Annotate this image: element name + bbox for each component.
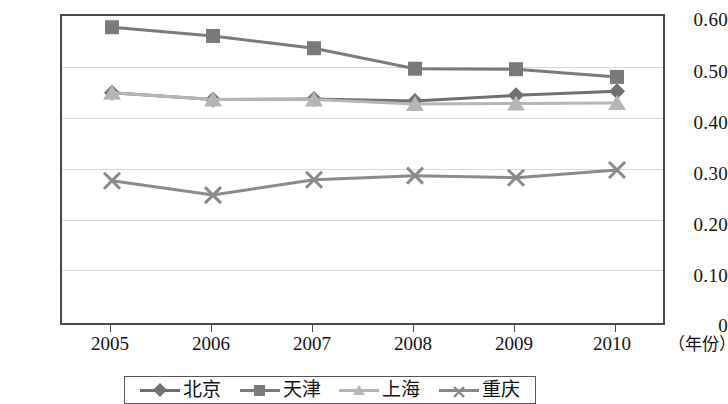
x-axis-tick-label: 2007 [267, 333, 357, 355]
legend-label: 上海 [382, 380, 420, 400]
legend-label: 北京 [183, 380, 221, 400]
legend-label: 重庆 [482, 380, 520, 400]
x-axis-tick-label: 2009 [469, 333, 559, 355]
y-axis-tick-label: 0.60 [672, 10, 728, 29]
series-canvas [62, 16, 663, 323]
legend-item-chongqing: 重庆 [439, 380, 520, 400]
square-marker-icon [240, 382, 280, 398]
y-axis-tick-label: 0.50 [672, 62, 728, 81]
plot-area [60, 14, 665, 325]
x-axis-unit-label: （年份） [668, 334, 728, 356]
cross-marker-icon [439, 382, 479, 398]
x-axis-tick-mark [615, 325, 616, 332]
legend-item-beijing: 北京 [140, 380, 221, 400]
x-axis-tick-mark [413, 325, 414, 332]
diamond-marker-icon [140, 382, 180, 398]
y-axis-tick-label: 0.20 [672, 215, 728, 234]
x-axis-tick-label: 2008 [368, 333, 458, 355]
y-axis-tick-label: 0.10 [672, 266, 728, 285]
x-axis-tick-mark [110, 325, 111, 332]
legend-label: 天津 [283, 380, 321, 400]
y-axis-tick-label: 0.40 [672, 113, 728, 132]
x-axis-tick-mark [312, 325, 313, 332]
x-axis-tick-label: 2010 [567, 333, 657, 355]
legend-item-tianjin: 天津 [240, 380, 321, 400]
x-axis-tick-mark [211, 325, 212, 332]
x-axis-tick-label: 2006 [166, 333, 256, 355]
chart-legend: 北京 天津 上海 重庆 [124, 376, 536, 404]
x-axis-tick-mark [514, 325, 515, 332]
triangle-marker-icon [339, 382, 379, 398]
y-axis-tick-label: 0 [672, 316, 728, 335]
legend-item-shanghai: 上海 [339, 380, 420, 400]
line-chart: 0.60 0.50 0.40 0.30 0.20 0.10 0 2005 200… [0, 0, 728, 404]
y-axis-tick-label: 0.30 [672, 164, 728, 183]
x-axis-tick-label: 2005 [65, 333, 155, 355]
